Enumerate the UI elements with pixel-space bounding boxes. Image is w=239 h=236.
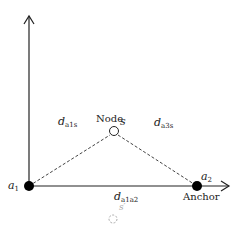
- distance-a1-s-line: [29, 135, 110, 186]
- node-s-prime-circle: [109, 215, 117, 223]
- s-label: s: [120, 116, 126, 127]
- d-a1a2-label: da1a2: [114, 191, 138, 204]
- a1-label: a1: [8, 180, 19, 193]
- d-a3s-label: da3s: [154, 117, 173, 130]
- s-prime-label: s′: [119, 203, 126, 212]
- d-a1s-sub: a1s: [65, 121, 77, 129]
- anchor-a1-dot: [24, 181, 34, 191]
- d-a3s-base: d: [154, 116, 161, 129]
- anchor-label: Anchor: [183, 192, 220, 202]
- d-a1s-label: da1s: [58, 116, 77, 129]
- distance-a2-s-line: [118, 135, 197, 186]
- d-a3s-sub: a3s: [161, 122, 173, 130]
- a1-label-sub: 1: [15, 185, 19, 193]
- a2-label-sub: 2: [208, 176, 212, 184]
- d-a1s-base: d: [58, 115, 65, 128]
- node-s-circle: [110, 127, 119, 136]
- a2-label: a2: [201, 171, 212, 184]
